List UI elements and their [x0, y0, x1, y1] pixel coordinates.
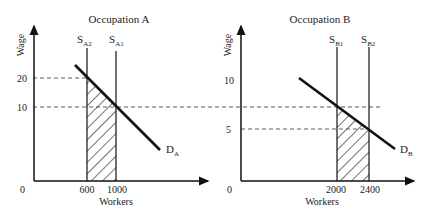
labor-market-diagram: Occupation A Wage SA2 SA1 DA 20 10 0 600…: [0, 0, 429, 217]
panel-b-origin: 0: [227, 184, 232, 195]
panel-occupation-a: Occupation A Wage SA2 SA1 DA 20 10 0 600…: [15, 13, 381, 207]
panel-occupation-b: Occupation B Wage SB1 SB2 DB 10 5 0 2000…: [222, 13, 414, 207]
panel-b-title: Occupation B: [290, 13, 351, 25]
panel-a-xtick-600: 600: [80, 184, 95, 195]
panel-a-xtick-1000: 1000: [107, 184, 127, 195]
panel-a-ytick-20: 20: [17, 73, 27, 84]
panel-b-xlabel: Workers: [305, 196, 339, 207]
panel-b-ylabel: Wage: [222, 33, 233, 56]
panel-a-ytick-10: 10: [17, 102, 27, 113]
panel-b-ytick-10: 10: [224, 75, 234, 86]
panel-b-ytick-5: 5: [226, 124, 231, 135]
panel-a-xlabel: Workers: [99, 196, 133, 207]
panel-a-origin: 0: [20, 184, 25, 195]
demand-b-label: DB: [400, 143, 413, 158]
panel-b-xtick-2400: 2400: [360, 184, 380, 195]
panel-a-ylabel: Wage: [15, 33, 26, 56]
demand-a-label: DA: [166, 143, 179, 158]
panel-a-title: Occupation A: [89, 13, 150, 25]
supply-a1-label: SA1: [109, 33, 124, 48]
supply-b1-label: SB1: [329, 33, 344, 48]
panel-b-xtick-2000: 2000: [326, 184, 346, 195]
supply-a2-label: SA2: [77, 33, 92, 48]
supply-b2-label: SB2: [361, 33, 376, 48]
panel-a-shaded-area: [87, 78, 116, 181]
